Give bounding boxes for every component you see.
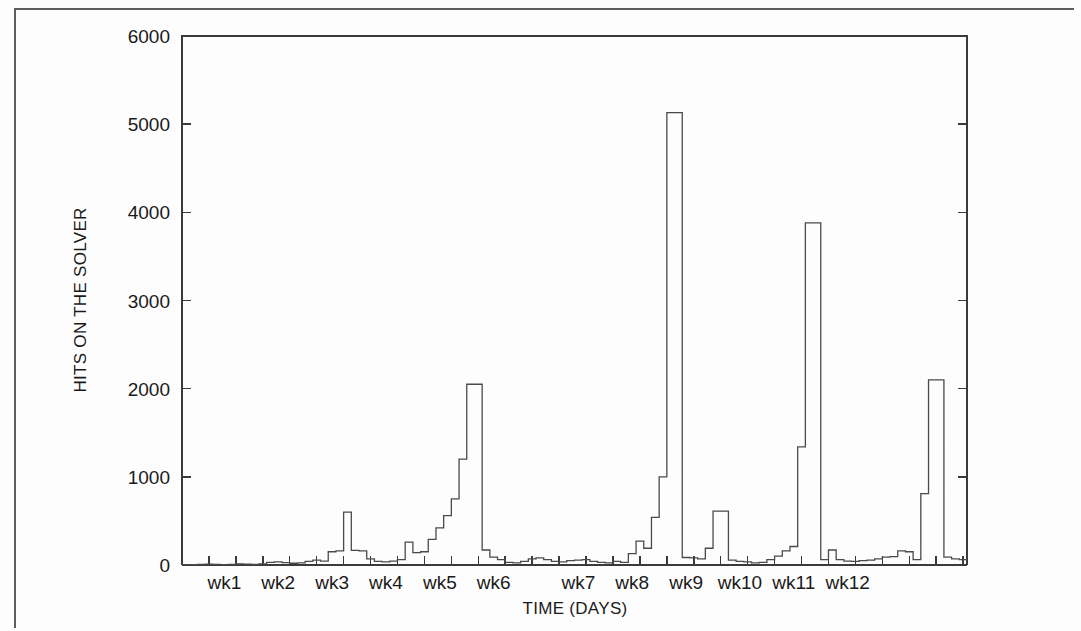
x-tick-label-wk3: wk3: [314, 572, 349, 593]
x-tick-label-wk8: wk8: [614, 572, 649, 593]
x-tick-label-wk5: wk5: [422, 572, 457, 593]
hits-on-solver-chart: 0100020003000400050006000 wk1wk2wk3wk4wk…: [0, 0, 1081, 631]
hits-step-line: [182, 113, 967, 565]
y-axis-tick-marks: [182, 124, 191, 477]
y-axis-tick-marks-right: [958, 124, 967, 477]
x-tick-label-wk12: wk12: [825, 572, 870, 593]
chart-page: 0100020003000400050006000 wk1wk2wk3wk4wk…: [0, 0, 1081, 631]
y-tick-label: 6000: [128, 26, 170, 47]
x-tick-label-wk2: wk2: [260, 572, 295, 593]
y-tick-label: 1000: [128, 467, 170, 488]
y-tick-label: 4000: [128, 202, 170, 223]
x-axis-tick-labels: wk1wk2wk3wk4wk5wk6wk7wk8wk9wk10wk11wk12: [206, 572, 869, 593]
x-tick-label-wk7: wk7: [560, 572, 595, 593]
y-tick-label: 5000: [128, 114, 170, 135]
plot-frame: [182, 36, 967, 565]
y-axis-tick-labels: 0100020003000400050006000: [128, 26, 170, 576]
y-axis-title: HITS ON THE SOLVER: [71, 207, 90, 392]
y-tick-label: 0: [159, 555, 170, 576]
chart-svg: 0100020003000400050006000 wk1wk2wk3wk4wk…: [0, 0, 1081, 631]
y-tick-label: 3000: [128, 291, 170, 312]
x-tick-label-wk11: wk11: [771, 572, 815, 593]
x-tick-label-wk10: wk10: [717, 572, 762, 593]
x-tick-label-wk1: wk1: [206, 572, 241, 593]
x-tick-label-wk9: wk9: [668, 572, 703, 593]
y-tick-label: 2000: [128, 379, 170, 400]
x-tick-label-wk4: wk4: [368, 572, 403, 593]
x-tick-label-wk6: wk6: [476, 572, 511, 593]
x-axis-title: TIME (DAYS): [523, 599, 628, 618]
